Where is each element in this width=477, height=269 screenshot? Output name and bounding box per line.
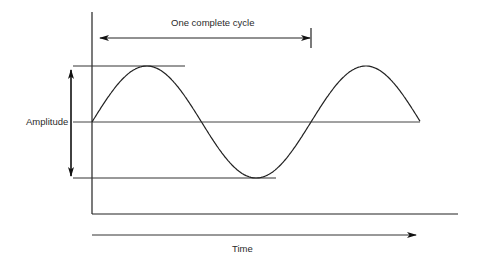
- cycle-label: One complete cycle: [171, 18, 254, 28]
- sine-wave-diagram: [0, 0, 477, 269]
- amplitude-label: Amplitude: [26, 117, 68, 127]
- time-label: Time: [232, 244, 253, 254]
